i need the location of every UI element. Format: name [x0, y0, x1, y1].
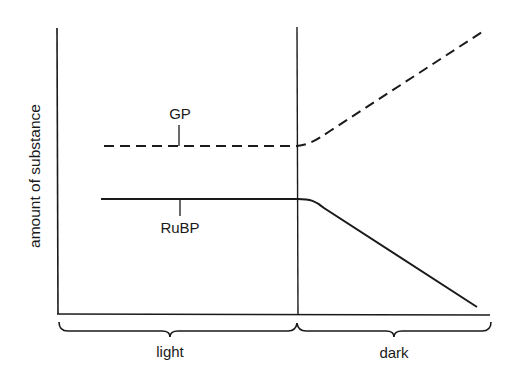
x-axis	[57, 314, 490, 315]
rubp-line	[101, 199, 477, 307]
y-axis	[57, 28, 58, 314]
light-dark-divider	[297, 27, 298, 315]
photosynthesis-diagram: amount of substance GP RuBP light dark	[0, 0, 515, 379]
dark-brace	[297, 322, 491, 337]
gp-line	[104, 32, 482, 146]
gp-label: GP	[169, 105, 191, 122]
light-phase-label: light	[156, 343, 184, 360]
light-brace	[59, 322, 297, 337]
y-axis-label: amount of substance	[26, 104, 43, 248]
dark-phase-label: dark	[379, 344, 409, 361]
rubp-label: RuBP	[160, 219, 199, 236]
